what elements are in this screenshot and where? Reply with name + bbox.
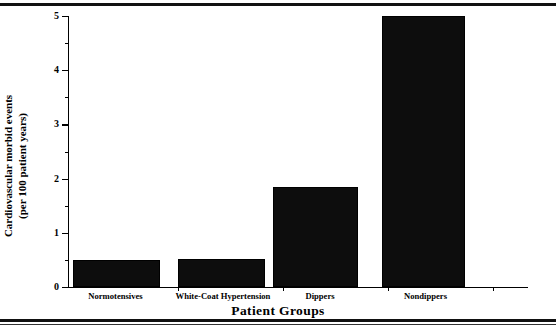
top-divider-rule — [0, 3, 556, 6]
y-axis-title-line2: (per 100 patient years) — [16, 51, 30, 281]
x-category-label-white-coat-hypertension: White-Coat Hypertension — [158, 292, 288, 301]
y-axis-title-line1: Cardiovascular morbid events — [2, 51, 16, 281]
y-tick-label-2: 2 — [54, 174, 59, 184]
x-group-tick-2 — [283, 287, 284, 291]
x-axis-line — [68, 287, 528, 288]
y-minor-tick-2-5 — [65, 152, 69, 153]
bar-normotensives[interactable] — [73, 260, 160, 287]
x-category-label-normotensives: Normotensives — [63, 292, 168, 301]
x-group-tick-3 — [388, 287, 389, 291]
bar-nondippers[interactable] — [382, 16, 465, 287]
x-category-label-nondippers: Nondippers — [383, 292, 468, 301]
y-tick-label-1: 1 — [54, 228, 59, 238]
plot-area: 0 1 2 3 4 5 — [68, 16, 528, 287]
x-category-label-dippers: Dippers — [280, 292, 360, 301]
y-tick-label-4: 4 — [54, 65, 59, 75]
y-minor-tick-0-5 — [65, 260, 69, 261]
y-axis-line — [68, 16, 69, 287]
x-axis-title: Patient Groups — [0, 303, 556, 319]
y-minor-tick-1-5 — [65, 206, 69, 207]
y-axis-title: Cardiovascular morbid events (per 100 pa… — [2, 51, 30, 281]
y-minor-tick-3-5 — [65, 97, 69, 98]
y-tick-label-0: 0 — [54, 282, 59, 292]
y-tick-label-5: 5 — [54, 11, 59, 21]
y-tick-label-3: 3 — [54, 119, 59, 129]
bar-white-coat-hypertension[interactable] — [178, 259, 265, 287]
bottom-divider-rule — [0, 319, 556, 322]
y-minor-tick-4-5 — [65, 43, 69, 44]
x-group-tick-4 — [493, 287, 494, 291]
bar-dippers[interactable] — [273, 187, 358, 287]
figure-container: 0 1 2 3 4 5 — [0, 0, 556, 332]
bottom-divider-rule-thin — [0, 324, 556, 325]
